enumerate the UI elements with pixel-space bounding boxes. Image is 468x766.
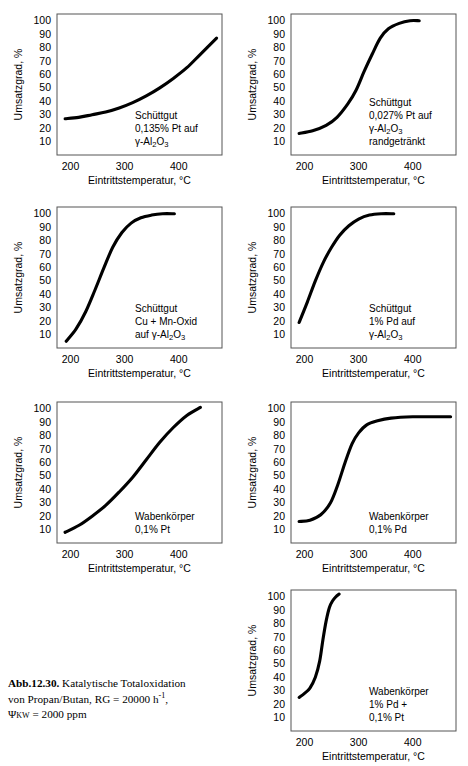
- y-tick-label: 40: [39, 483, 51, 495]
- caption-text-2-end: ,: [165, 693, 168, 705]
- y-tick-label: 60: [273, 456, 285, 468]
- annotation-line: Schüttgut: [369, 303, 411, 314]
- y-tick-label: 60: [39, 68, 51, 80]
- y-tick-label: 80: [273, 234, 285, 246]
- chart-bulk-pt-0135: 100908070605040302010Umsatzgrad, %200300…: [0, 0, 234, 190]
- y-tick-label: 90: [273, 221, 285, 233]
- y-axis-label: Umsatzgrad, %: [246, 437, 258, 509]
- x-tick-label: 400: [404, 160, 422, 172]
- y-tick-label: 70: [39, 55, 51, 67]
- chart-panel-2: 100908070605040302010Umsatzgrad, %200300…: [0, 193, 234, 383]
- y-tick-label: 10: [273, 135, 285, 147]
- annotation-line: Wabenkörper: [135, 511, 195, 522]
- x-tick-label: 200: [296, 160, 314, 172]
- x-tick-label: 300: [116, 160, 134, 172]
- x-tick-label: 300: [350, 160, 368, 172]
- y-axis-label: Umsatzgrad, %: [12, 437, 24, 509]
- annotation-line: randgetränkt: [369, 136, 425, 147]
- x-tick-label: 400: [170, 353, 188, 365]
- y-tick-label: 50: [39, 81, 51, 93]
- y-tick-label: 90: [39, 416, 51, 428]
- data-curve: [65, 38, 216, 119]
- y-tick-label: 50: [273, 274, 285, 286]
- y-tick-label: 30: [39, 301, 51, 313]
- annotation-line: 0,027% Pt auf: [369, 110, 432, 121]
- y-tick-label: 70: [273, 631, 285, 643]
- y-tick-label: 10: [39, 523, 51, 535]
- x-tick-label: 200: [296, 353, 314, 365]
- y-tick-label: 40: [273, 95, 285, 107]
- x-tick-label: 400: [170, 548, 188, 560]
- y-tick-label: 10: [39, 135, 51, 147]
- x-tick-label: 400: [404, 548, 422, 560]
- y-tick-label: 50: [273, 469, 285, 481]
- y-axis-label: Umsatzgrad, %: [246, 625, 258, 697]
- y-tick-label: 80: [273, 617, 285, 629]
- caption-psi-subscript: KW: [16, 711, 29, 720]
- annotation-line: Wabenkörper: [369, 511, 429, 522]
- y-tick-label: 60: [39, 456, 51, 468]
- y-axis-label: Umsatzgrad, %: [12, 49, 24, 121]
- y-tick-label: 100: [267, 14, 285, 26]
- y-tick-label: 50: [273, 657, 285, 669]
- y-tick-label: 20: [273, 122, 285, 134]
- chart-bulk-pd-1: 100908070605040302010Umsatzgrad, %200300…: [234, 193, 468, 383]
- figure-caption: Abb.12.30. Katalytische Totaloxidation v…: [8, 676, 222, 721]
- x-tick-label: 400: [170, 160, 188, 172]
- x-tick-label: 400: [404, 736, 422, 748]
- y-tick-label: 100: [267, 402, 285, 414]
- y-tick-label: 70: [39, 443, 51, 455]
- y-tick-label: 40: [273, 288, 285, 300]
- y-tick-label: 80: [39, 429, 51, 441]
- y-tick-label: 20: [39, 510, 51, 522]
- y-tick-label: 30: [273, 684, 285, 696]
- annotation-line: Cu + Mn-Oxid: [135, 316, 197, 327]
- data-curve: [299, 417, 450, 522]
- x-tick-label: 300: [116, 548, 134, 560]
- y-tick-label: 30: [39, 496, 51, 508]
- y-tick-label: 10: [273, 523, 285, 535]
- annotation-line: 0,1% Pd: [369, 524, 407, 535]
- x-tick-label: 300: [350, 736, 368, 748]
- y-tick-label: 10: [39, 328, 51, 340]
- y-tick-label: 20: [39, 122, 51, 134]
- chart-panel-4: 100908070605040302010Umsatzgrad, %200300…: [0, 388, 234, 578]
- annotation-line: Schüttgut: [135, 303, 177, 314]
- annotation-line: Schüttgut: [135, 110, 177, 121]
- y-tick-label: 90: [273, 28, 285, 40]
- chart-panel-0: 100908070605040302010Umsatzgrad, %200300…: [0, 0, 234, 190]
- y-tick-label: 40: [39, 288, 51, 300]
- y-tick-label: 90: [273, 416, 285, 428]
- y-tick-label: 20: [273, 698, 285, 710]
- y-tick-label: 20: [39, 315, 51, 327]
- y-tick-label: 30: [39, 108, 51, 120]
- annotation-line: γ-Al2O3: [369, 329, 402, 342]
- x-axis-label: Eintrittstemperatur, °C: [88, 562, 191, 574]
- y-tick-label: 90: [273, 604, 285, 616]
- annotation-line: 1% Pd +: [369, 699, 407, 710]
- y-tick-label: 30: [273, 496, 285, 508]
- annotation-line: 0,1% Pt: [369, 712, 404, 723]
- y-tick-label: 100: [267, 207, 285, 219]
- annotation-line: 1% Pd auf: [369, 316, 415, 327]
- y-tick-label: 50: [273, 81, 285, 93]
- caption-text-3: = 2000 ppm: [30, 708, 87, 720]
- chart-panel-5: 100908070605040302010Umsatzgrad, %200300…: [234, 388, 468, 578]
- y-tick-label: 50: [39, 469, 51, 481]
- y-tick-label: 60: [273, 68, 285, 80]
- y-tick-label: 30: [273, 301, 285, 313]
- annotation-line: Wabenkörper: [369, 686, 429, 697]
- y-axis-label: Umsatzgrad, %: [246, 49, 258, 121]
- y-tick-label: 60: [39, 261, 51, 273]
- y-tick-label: 70: [273, 55, 285, 67]
- y-tick-label: 80: [273, 429, 285, 441]
- y-tick-label: 50: [39, 274, 51, 286]
- y-tick-label: 70: [273, 248, 285, 260]
- caption-text-1: Katalytische Totaloxidation: [59, 677, 185, 689]
- chart-bulk-cu-mn-oxid: 100908070605040302010Umsatzgrad, %200300…: [0, 193, 234, 383]
- y-tick-label: 40: [39, 95, 51, 107]
- x-tick-label: 200: [62, 160, 80, 172]
- y-tick-label: 40: [273, 671, 285, 683]
- x-axis-label: Eintrittstemperatur, °C: [322, 367, 425, 379]
